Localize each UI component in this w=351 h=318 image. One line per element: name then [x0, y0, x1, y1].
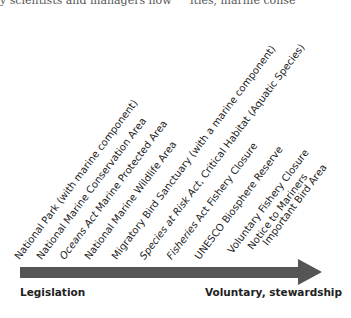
- header-fragment-right: ities, marine conse: [190, 0, 295, 7]
- axis-label-voluntary: Voluntary, stewardship: [205, 286, 342, 298]
- arrow-right-icon: [298, 259, 322, 285]
- axis-label-legislation: Legislation: [20, 286, 85, 298]
- header-fragment-left: y scientists and managers how: [0, 0, 172, 7]
- spectrum-arrow-shaft: [20, 267, 300, 278]
